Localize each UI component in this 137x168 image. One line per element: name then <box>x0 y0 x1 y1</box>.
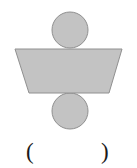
top-circle-shape <box>52 12 88 48</box>
figure-canvas <box>0 0 137 134</box>
answer-open-paren: ( <box>26 140 34 163</box>
answer-blank[interactable] <box>36 141 100 161</box>
figure-question-page: ( ) <box>0 0 137 168</box>
answer-row: ( ) <box>0 134 137 168</box>
trapezoid-shape <box>15 49 122 93</box>
bottom-circle-shape <box>52 93 88 129</box>
geometric-figure <box>0 0 137 134</box>
answer-close-paren: ) <box>101 140 109 163</box>
